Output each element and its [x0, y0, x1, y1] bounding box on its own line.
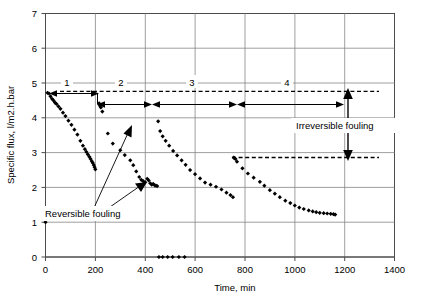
phase-label-4: 4	[284, 77, 289, 88]
phase-label-3: 3	[189, 77, 194, 88]
y-tick-label-1: 1	[32, 217, 37, 228]
y-tick-label-7: 7	[32, 8, 37, 19]
x-axis-title: Time, min	[214, 282, 255, 293]
irreversible-fouling-label: Irreversible fouling	[296, 120, 374, 131]
phase-label-1: 1	[64, 77, 69, 88]
chart-figure: 0 1 2 3 4 5 6 7 0 200 400 600 800 1000 1…	[0, 0, 426, 308]
x-tick-label-1200: 1200	[334, 264, 355, 275]
reversible-fouling-label: Reversible fouling	[45, 208, 121, 219]
x-tick-label-0: 0	[43, 264, 48, 275]
y-tick-label-2: 2	[32, 182, 37, 193]
y-tick-label-4: 4	[32, 112, 37, 123]
y-axis-title: Specific flux, l/m2.h.bar	[5, 86, 16, 184]
y-tick-label-3: 3	[32, 147, 37, 158]
chart-background	[0, 0, 426, 308]
phase-label-2: 2	[118, 77, 123, 88]
x-tick-label-400: 400	[137, 264, 153, 275]
x-tick-label-800: 800	[237, 264, 253, 275]
y-tick-label-6: 6	[32, 43, 37, 54]
x-tick-label-200: 200	[87, 264, 103, 275]
x-tick-label-1400: 1400	[384, 264, 405, 275]
y-tick-label-0: 0	[32, 252, 37, 263]
x-tick-label-600: 600	[187, 264, 203, 275]
x-tick-label-1000: 1000	[284, 264, 305, 275]
specific-flux-vs-time-chart: 0 1 2 3 4 5 6 7 0 200 400 600 800 1000 1…	[0, 0, 426, 308]
y-tick-label-5: 5	[32, 78, 37, 89]
